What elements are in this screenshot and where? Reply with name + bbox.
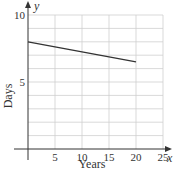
x-tick-label: 20 [131, 151, 143, 163]
x-tick-label: 5 [52, 151, 58, 163]
y-axis-arrow-icon [25, 1, 31, 8]
y-tick-label: 10 [14, 9, 26, 21]
x-axis-variable: x [166, 151, 173, 165]
line-chart: 510152025510 y x Years Days [0, 0, 173, 171]
y-tick-label: 5 [20, 76, 26, 88]
tick-labels: 510152025510 [14, 9, 169, 163]
y-axis-variable: y [33, 0, 40, 13]
axes [14, 1, 172, 160]
x-axis-label: Years [79, 157, 106, 171]
grid [28, 15, 163, 149]
y-axis-label: Days [1, 83, 15, 108]
